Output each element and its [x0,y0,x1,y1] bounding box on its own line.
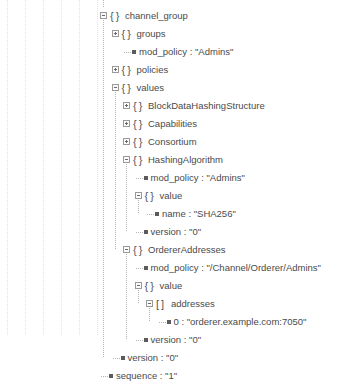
expand-toggle-Capabilities[interactable] [123,120,130,127]
object-braces-icon: { } [133,115,142,133]
tree-node-label: OrdererAddresses [148,241,226,259]
array-brackets-icon: [ ] [156,295,164,313]
tree-node-label: sequence : "1" [116,367,177,385]
expand-toggle-policies[interactable] [112,66,119,73]
tree-node-label: version : "0" [151,223,202,241]
tree-node-label: Capabilities [148,115,197,133]
tree-connector-line [136,178,143,179]
leaf-node-marker [109,374,113,378]
tree-node-label: mod_policy : "Admins" [139,43,233,61]
collapse-toggle-values[interactable] [112,84,119,91]
tree-connector-line [147,214,154,215]
collapse-toggle-channel_group[interactable] [100,12,107,19]
tree-node-label: groups [137,25,166,43]
tree-node-label: mod_policy : "Admins" [151,169,245,187]
tree-connector-line [136,268,143,269]
object-braces-icon: { } [122,61,131,79]
expand-toggle-Consortium[interactable] [123,138,130,145]
leaf-node-marker [144,338,148,342]
tree-node-label: version : "0" [128,349,179,367]
tree-connector-line [124,52,131,53]
object-braces-icon: { } [133,241,142,259]
object-braces-icon: { } [110,7,119,25]
object-braces-icon: { } [145,277,154,295]
leaf-node-marker [155,212,159,216]
tree-node-label: mod_policy : "/Channel/Orderer/Admins" [151,259,321,277]
tree-node-label: channel_group [125,7,188,25]
collapse-toggle-value[interactable] [135,282,142,289]
leaf-node-marker [167,320,171,324]
collapse-toggle-HashingAlgorithm[interactable] [123,156,130,163]
tree-vertical-line [138,200,139,214]
tree-node-label: addresses [171,295,215,313]
object-braces-icon: { } [122,79,131,97]
tree-vertical-line [126,254,127,340]
tree-node-label: HashingAlgorithm [148,151,223,169]
object-braces-icon: { } [145,187,154,205]
leaf-node-marker [132,50,136,54]
leaf-node-marker [121,356,125,360]
tree-connector-line [113,358,120,359]
tree-connector-line [101,376,108,377]
tree-node-label: policies [137,61,169,79]
tree-node-label: BlockDataHashingStructure [148,97,265,115]
object-braces-icon: { } [133,151,142,169]
object-braces-icon: { } [133,97,142,115]
tree-connector-line [136,232,143,233]
tree-connector-line [159,322,166,323]
collapse-toggle-value[interactable] [135,192,142,199]
tree-node-label: value [160,277,183,295]
tree-vertical-line [138,290,139,304]
tree-connector-line [136,340,143,341]
tree-root-stub-line [103,0,104,7]
tree-vertical-line [103,20,104,358]
object-braces-icon: { } [122,25,131,43]
tree-node-label: name : "SHA256" [162,205,236,223]
object-braces-icon: { } [133,133,142,151]
tree-node-label: version : "0" [151,331,202,349]
tree-node-label: value [160,187,183,205]
tree-node-label: 0 : "orderer.example.com:7050" [174,313,307,331]
tree-vertical-line [149,308,150,322]
tree-node-label: values [137,79,164,97]
leaf-node-marker [144,266,148,270]
leaf-node-marker [144,230,148,234]
tree-node-label: Consortium [148,133,197,151]
collapse-toggle-addresses[interactable] [146,300,153,307]
tree-vertical-line [126,164,127,232]
collapse-toggle-OrdererAddresses[interactable] [123,246,130,253]
expand-toggle-BlockDataHashingStructure[interactable] [123,102,130,109]
tree-vertical-line [115,92,116,250]
leaf-node-marker [144,176,148,180]
expand-toggle-groups[interactable] [112,30,119,37]
